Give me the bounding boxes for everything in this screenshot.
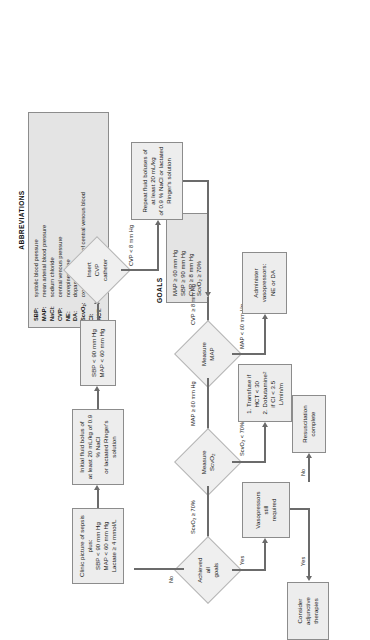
node-start: Clinic picture of sepsis plus: SBP < 90 …: [72, 508, 124, 584]
connector: [121, 269, 159, 271]
node-initial-bolus: Initial fluid bolus of at least 20 mL/kg…: [72, 409, 124, 485]
table-row: MAP: mean arterial blood pressure: [41, 192, 49, 321]
connector: [232, 353, 266, 355]
arrow-head: [262, 314, 268, 319]
connector: [157, 225, 159, 271]
node-repeat-bolus: Repeat fluid boluses of at least 20 mL/k…: [131, 142, 183, 220]
decision-label: Achieved all goals: [196, 557, 220, 582]
goals-panel: GOALS MAP ≥ 60 mm Hg SBP ≥ 90 mm Hg CVP …: [156, 213, 209, 303]
edge-label-scvo2-lt-70: ScvO2 < 70%: [239, 422, 246, 456]
table-row: NE: norepinephrine: [65, 192, 73, 321]
connector: [97, 490, 99, 508]
table-row: CVP: central venous pressure: [57, 192, 65, 321]
node-resuscitation-complete: Resuscitation complete: [292, 395, 326, 453]
connector: [264, 319, 266, 355]
abbrev-value: systolic blood pressure: [33, 192, 41, 297]
connector: [290, 508, 310, 510]
abbrev-value: sodium chloride: [49, 192, 57, 297]
decision-label: Measure MAP: [200, 342, 216, 366]
edge-label-scvo2-ge-70: ScvO2 ≥ 70%: [190, 500, 197, 534]
goal-item: MAP ≥ 60 mm Hg: [171, 220, 179, 296]
node-consider-adjunctive: Consider adjunctive therapies: [287, 582, 329, 640]
node-administer-vasopressors: Administer vasopressors: NE or DA: [242, 252, 287, 314]
arrow-head: [94, 485, 100, 490]
edge-label-map-ge-60: MAP ≥ 60 mm Hg: [190, 381, 196, 426]
decision-label: Insert CVP catheter: [85, 259, 109, 281]
edge-label-no: No: [168, 576, 174, 583]
connector: [264, 543, 266, 571]
abbrev-key: CVP:: [57, 297, 65, 321]
abbrev-value: central venous pressure: [57, 192, 65, 297]
connector: [207, 378, 209, 433]
goal-item: SBP ≥ 90 mm Hg: [179, 220, 187, 296]
abbrev-key: ScvO2:: [80, 297, 88, 321]
connector: [183, 180, 209, 182]
arrow-head: [155, 220, 161, 225]
abbrev-key: NE:: [65, 297, 73, 321]
arrow-head: [262, 422, 268, 427]
connector: [308, 458, 310, 482]
connector: [207, 182, 209, 292]
abbreviations-title: ABBREVIATIONS: [18, 112, 25, 328]
arrow-head: [94, 386, 100, 391]
connector: [232, 569, 266, 571]
connector: [232, 461, 266, 463]
abbrev-key: SBP:: [33, 297, 41, 321]
goals-body: MAP ≥ 60 mm Hg SBP ≥ 90 mm Hg CVP ≥ 8 mm…: [166, 213, 209, 303]
edge-label-no2: No: [300, 469, 306, 476]
abbrev-key: MAP:: [41, 297, 49, 321]
abbrev-key: NaCl:: [49, 297, 57, 321]
node-vasopressors-still-required: Vasopressors still required: [242, 482, 290, 538]
connector: [97, 391, 99, 409]
arrow-head: [306, 576, 312, 581]
edge-label-cvp-ge-8: CVP ≥ 8 mm Hg: [190, 284, 196, 325]
table-row: NaCl: sodium chloride: [49, 192, 57, 321]
abbrev-value: norepinephrine: [65, 192, 73, 297]
arrow-head: [262, 538, 268, 543]
abbrev-key: DA:: [72, 297, 80, 321]
edge-label-yes2: Yes: [300, 557, 306, 566]
connector: [264, 427, 266, 463]
decision-label: Measure ScvO2: [200, 450, 217, 474]
goal-item: ScvO2 ≥ 70%: [195, 220, 204, 296]
table-row: SBP: systolic blood pressure: [33, 192, 41, 321]
connector: [134, 568, 184, 570]
connector: [97, 304, 99, 320]
edge-label-cvp-lt-8: CVP < 8 mm Hg: [128, 225, 134, 266]
node-check-sbp-map: SBP < 90 mm Hg MAP < 60 mm Hg: [80, 320, 116, 386]
edge-label-yes: Yes: [239, 556, 245, 565]
node-transfuse-dobutamine: 1. Transfuse if HCT < 30 2. Dobutamine i…: [238, 364, 292, 422]
connector: [207, 486, 209, 541]
abbrev-value: mean arterial blood pressure: [41, 192, 49, 297]
connector: [308, 510, 310, 576]
arrow-head: [306, 453, 312, 458]
